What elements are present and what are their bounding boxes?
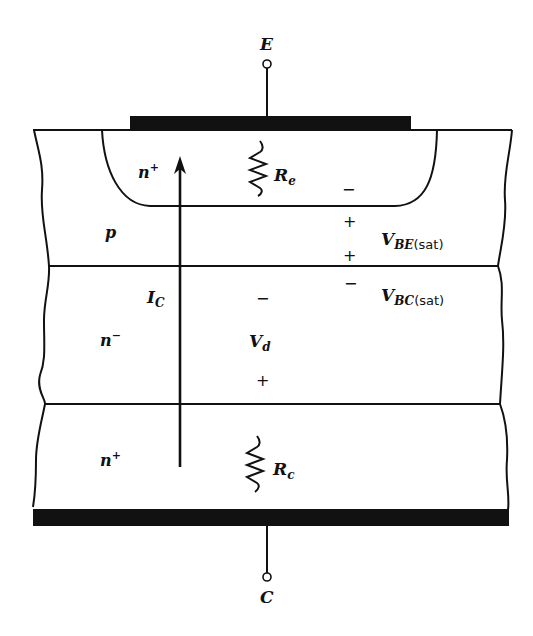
- emitter-node-icon: [263, 60, 271, 68]
- left-edge: [33, 130, 49, 507]
- bjt-diagram: E C Re Rc n+ p n− n+ IC − Vd + − + +: [0, 0, 533, 636]
- emitter-label: E: [259, 34, 274, 54]
- vbe-plus-2: +: [343, 246, 356, 265]
- emitter-terminal: E: [259, 34, 274, 116]
- emitter-contact: [130, 116, 411, 131]
- base-region-label: p: [105, 223, 116, 242]
- collector-current-arrow: [174, 156, 186, 467]
- right-edge: [498, 130, 512, 510]
- collector-current-label: IC: [146, 287, 165, 310]
- vbc-label: VBC(sat): [381, 285, 444, 308]
- emitter-resistor-label: Re: [273, 165, 296, 188]
- substrate-region-label: n+: [100, 449, 121, 470]
- vbe-label: VBE(sat): [381, 229, 443, 252]
- vbe-minus: −: [342, 180, 355, 199]
- collector-resistor-label: Rc: [272, 459, 295, 482]
- drift-region-label: n−: [100, 329, 121, 350]
- vbc-minus: −: [344, 274, 357, 293]
- emitter-region-label: n+: [138, 161, 159, 182]
- emitter-resistor-icon: [250, 141, 266, 196]
- vd-plus: +: [256, 371, 269, 390]
- collector-resistor-icon: [247, 436, 263, 492]
- collector-contact: [33, 509, 509, 526]
- collector-node-icon: [263, 573, 271, 581]
- collector-label: C: [260, 587, 274, 607]
- vd-minus: −: [256, 289, 269, 308]
- vd-label: Vd: [249, 331, 271, 354]
- collector-terminal: C: [260, 526, 274, 607]
- vbe-plus-1: +: [343, 212, 356, 231]
